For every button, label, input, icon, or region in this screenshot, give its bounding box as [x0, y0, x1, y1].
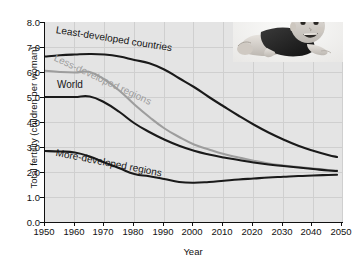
y-tick-5: 5.0	[10, 93, 40, 103]
y-tick-6: 6.0	[10, 68, 40, 78]
fertility-line-chart: Total fertility (children per woman) 8.0…	[0, 0, 356, 263]
plot-area	[44, 22, 343, 223]
series-label-world: World	[57, 79, 83, 90]
y-tick-1: 1.0	[10, 193, 40, 203]
y-tick-3: 3.0	[10, 143, 40, 153]
baby-photo-illustration	[233, 22, 343, 62]
y-axis-ticks: 8.0 7.0 6.0 5.0 4.0 3.0 2.0 1.0 0.0	[6, 0, 40, 263]
baby-photo	[233, 22, 343, 62]
x-axis-title: Year	[0, 246, 356, 257]
y-tick-8: 8.0	[10, 18, 40, 28]
x-tick-2050: 2050	[321, 226, 356, 237]
y-tick-4: 4.0	[10, 118, 40, 128]
y-tick-7: 7.0	[10, 43, 40, 53]
y-tick-2: 2.0	[10, 168, 40, 178]
